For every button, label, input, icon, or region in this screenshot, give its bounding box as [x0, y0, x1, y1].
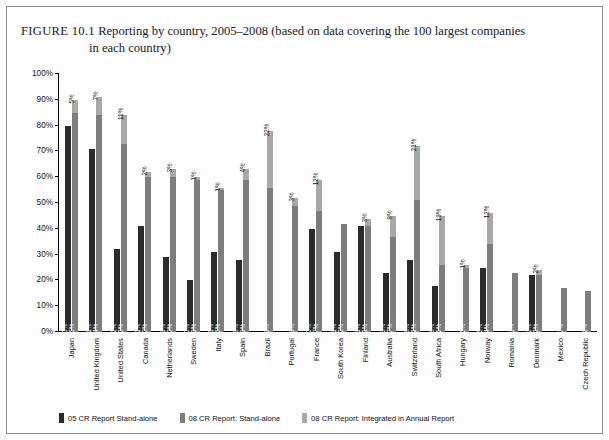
bar-08-stand-alone[interactable]: 23% — [512, 273, 518, 332]
bar-08-stand-alone[interactable]: 85% — [72, 113, 78, 332]
bar-08-stand-alone[interactable]: 34% — [487, 244, 493, 332]
bar-08-integrated[interactable]: 3% — [170, 169, 176, 177]
x-axis-category-label: Netherlands — [165, 338, 174, 378]
bar-08-stand-alone[interactable]: 51% — [414, 200, 420, 332]
bar-08-stand-alone[interactable]: 22% — [536, 275, 542, 332]
bar-group-south-africa[interactable]: 18%19%26% — [426, 73, 450, 332]
bar-08-stack[interactable]: 1%55% — [218, 73, 224, 332]
bar-08-stand-alone[interactable]: 47% — [316, 211, 322, 332]
bar-08-stack[interactable]: 19%26% — [439, 73, 445, 332]
bar-group-netherlands[interactable]: 29%3%60% — [157, 73, 181, 332]
bar-08-stand-alone[interactable]: 55% — [218, 190, 224, 332]
bar-08-stack[interactable]: 23% — [512, 73, 518, 332]
bar-08-stack[interactable]: 42% — [341, 73, 347, 332]
bar-08-integrated[interactable]: 7% — [96, 97, 102, 115]
bar-08-stand-alone[interactable]: 26% — [439, 265, 445, 332]
y-axis-tick-mark — [55, 254, 59, 255]
bar-08-stand-alone[interactable]: 17% — [561, 288, 567, 332]
bar-group-finland[interactable]: 41%3%41% — [352, 73, 376, 332]
bar-08-stack[interactable]: 2%22% — [536, 73, 542, 332]
bar-05-stand-alone[interactable]: 71% — [89, 149, 95, 332]
y-axis-tick-labels: 0%10%20%30%40%50%60%70%80%90%100% — [25, 73, 55, 331]
legend-item-2[interactable]: 08 CR Report: Integrated in Annual Repor… — [302, 413, 454, 423]
bar-08-stand-alone[interactable]: 41% — [365, 226, 371, 332]
bar-08-stack[interactable]: 12%34% — [487, 73, 493, 332]
bar-group-czech-republic[interactable]: 16% — [573, 73, 597, 332]
bar-08-stack[interactable]: 1%25% — [463, 73, 469, 332]
bar-08-integrated[interactable]: 3% — [292, 198, 298, 206]
bar-08-integrated[interactable]: 22% — [267, 131, 273, 188]
bar-08-stand-alone[interactable]: 42% — [341, 224, 347, 332]
bar-08-stack[interactable]: 22%56% — [267, 73, 273, 332]
bar-group-spain[interactable]: 28%4%59% — [230, 73, 254, 332]
bar-08-stand-alone[interactable]: 25% — [463, 268, 469, 333]
bar-group-australia[interactable]: 23%8%37% — [377, 73, 401, 332]
bar-group-canada[interactable]: 41%2%60% — [132, 73, 156, 332]
bar-08-stand-alone[interactable]: 16% — [585, 291, 591, 332]
bar-05-stand-alone[interactable]: 25% — [480, 268, 486, 333]
legend-item-1[interactable]: 08 CR Report: Stand-alone — [180, 413, 281, 423]
bar-05-stand-alone[interactable]: 29% — [163, 257, 169, 332]
y-axis-tick-mark — [55, 176, 59, 177]
bar-08-stand-alone[interactable]: 37% — [390, 237, 396, 332]
bar-08-stack[interactable]: 12%47% — [316, 73, 322, 332]
bar-08-stack[interactable]: 3%49% — [292, 73, 298, 332]
bar-08-integrated[interactable]: 3% — [365, 219, 371, 227]
bar-group-romania[interactable]: 23% — [499, 73, 523, 332]
bar-08-stand-alone[interactable]: 60% — [145, 177, 151, 332]
bar-group-hungary[interactable]: 1%25% — [450, 73, 474, 332]
bar-08-integrated[interactable]: 12% — [487, 213, 493, 244]
bar-08-integrated[interactable]: 11% — [121, 115, 127, 143]
bar-group-denmark[interactable]: 22%2%22% — [524, 73, 548, 332]
bar-08-stand-alone[interactable]: 49% — [292, 206, 298, 332]
bar-08-stack[interactable]: 2%60% — [145, 73, 151, 332]
bar-08-stack[interactable]: 3%41% — [365, 73, 371, 332]
bar-08-stand-alone[interactable]: 73% — [121, 144, 127, 332]
bar-08-integrated[interactable]: 19% — [439, 216, 445, 265]
bar-08-integrated[interactable]: 5% — [72, 100, 78, 113]
bar-group-united-kingdom[interactable]: 71%7%84% — [83, 73, 107, 332]
bar-05-stand-alone[interactable]: 40% — [309, 229, 315, 332]
bar-08-integrated[interactable]: 12% — [316, 180, 322, 211]
bar-group-brazil[interactable]: 22%56% — [255, 73, 279, 332]
bar-value-label: 28% — [232, 324, 239, 336]
bar-08-stack[interactable]: 11%73% — [121, 73, 127, 332]
bar-group-japan[interactable]: 80%5%85% — [59, 73, 83, 332]
bar-08-stack[interactable]: 21%51% — [414, 73, 420, 332]
bar-08-stand-alone[interactable]: 60% — [170, 177, 176, 332]
bar-08-stand-alone[interactable]: 56% — [267, 188, 273, 332]
bar-group-sweden[interactable]: 20%1%59% — [181, 73, 205, 332]
bar-08-stack[interactable]: 16% — [585, 73, 591, 332]
bar-05-stand-alone[interactable]: 31% — [211, 252, 217, 332]
bar-08-stack[interactable]: 8%37% — [390, 73, 396, 332]
bar-08-stand-alone[interactable]: 59% — [243, 180, 249, 332]
bar-08-integrated[interactable]: 21% — [414, 146, 420, 200]
bar-05-stand-alone[interactable]: 41% — [358, 226, 364, 332]
legend-item-0[interactable]: 05 CR Report Stand-alone — [59, 413, 158, 423]
bar-group-united-states[interactable]: 32%11%73% — [108, 73, 132, 332]
bar-group-mexico[interactable]: 17% — [548, 73, 572, 332]
bar-05-stand-alone[interactable]: 80% — [65, 126, 71, 332]
bar-08-stack[interactable]: 3%60% — [170, 73, 176, 332]
bar-08-stack[interactable]: 4%59% — [243, 73, 249, 332]
bar-08-stand-alone[interactable]: 59% — [194, 180, 200, 332]
bar-08-integrated[interactable]: 4% — [243, 169, 249, 179]
bar-08-stack[interactable]: 17% — [561, 73, 567, 332]
bar-08-integrated[interactable]: 8% — [390, 216, 396, 237]
bar-08-stack[interactable]: 5%85% — [72, 73, 78, 332]
bar-05-stand-alone[interactable]: 28% — [236, 260, 242, 332]
bar-group-south-korea[interactable]: 31%42% — [328, 73, 352, 332]
bar-08-stand-alone[interactable]: 84% — [96, 115, 102, 332]
bar-group-france[interactable]: 40%12%47% — [304, 73, 328, 332]
bar-group-switzerland[interactable]: 28%21%51% — [401, 73, 425, 332]
bar-05-stand-alone[interactable]: 28% — [407, 260, 413, 332]
bar-05-stand-alone[interactable]: 32% — [114, 249, 120, 332]
bar-group-norway[interactable]: 25%12%34% — [475, 73, 499, 332]
bar-05-stand-alone[interactable]: 41% — [138, 226, 144, 332]
bar-08-stack[interactable]: 1%59% — [194, 73, 200, 332]
bar-value-label: 28% — [403, 324, 410, 336]
bar-05-stand-alone[interactable]: 31% — [334, 252, 340, 332]
bar-08-stack[interactable]: 7%84% — [96, 73, 102, 332]
bar-group-italy[interactable]: 31%1%55% — [206, 73, 230, 332]
bar-group-portugal[interactable]: 3%49% — [279, 73, 303, 332]
